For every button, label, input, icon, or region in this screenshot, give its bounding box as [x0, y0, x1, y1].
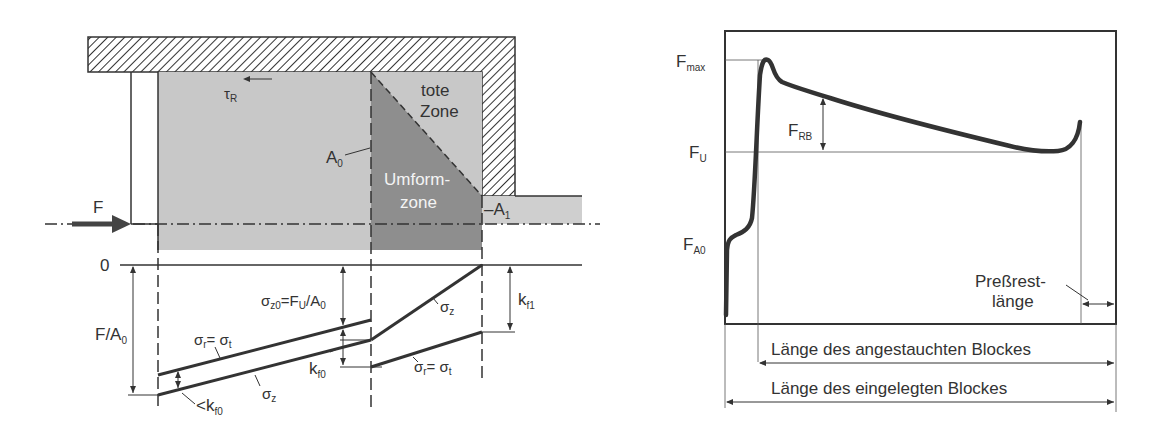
force-label: F	[93, 198, 103, 217]
fa0-label: FA0	[683, 235, 706, 256]
sigma-r-eq-sigma-t-left-label: σr= σt	[194, 331, 232, 350]
sigma-z-right-label: σz	[440, 298, 454, 317]
pressrest-label-2: länge	[992, 292, 1034, 311]
dead-zone-label-2: Zone	[420, 102, 459, 121]
inserted-length-label: Länge des eingelegten Blockes	[771, 379, 1007, 398]
force-arrowhead-icon	[112, 215, 131, 233]
sigma-z0-label: σz0=FU/A0	[261, 292, 326, 311]
chart-frame	[725, 31, 1116, 324]
force-displacement-chart: Fmax FU FA0 FRB Preßrest- länge Länge de…	[676, 31, 1116, 412]
sigma-r-eq-sigma-t-right-label: σr= σt	[414, 358, 452, 377]
deformation-zone-label-2: zone	[400, 193, 437, 212]
kf1-label: kf1	[518, 290, 535, 311]
sigma-z-line-right	[371, 265, 482, 340]
extrusion-diagram: τR tote Zone Umform- zone A0 –A1 F 0 F/A…	[45, 37, 600, 417]
deformation-zone-label-1: Umform-	[384, 170, 450, 189]
frb-label: FRB	[788, 121, 813, 142]
f-over-a0-label: F/A0	[95, 325, 127, 346]
fmax-label: Fmax	[676, 52, 705, 73]
pressrest-label-1: Preßrest-	[975, 272, 1046, 291]
zero-label: 0	[100, 256, 109, 275]
sigma-z-left-label: σz	[262, 385, 276, 404]
lt-kf0-label: <kf0	[196, 396, 223, 417]
kf0-label: kf0	[309, 359, 326, 380]
dead-zone-label-1: tote	[421, 81, 449, 100]
upset-length-label: Länge des angestauchten Blockes	[771, 340, 1031, 359]
diagram-canvas: τR tote Zone Umform- zone A0 –A1 F 0 F/A…	[0, 0, 1162, 445]
fu-label: FU	[689, 143, 707, 164]
